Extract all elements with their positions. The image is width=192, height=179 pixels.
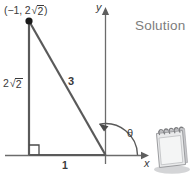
vertex-point-marker bbox=[25, 17, 32, 24]
solution-heading: Solution bbox=[135, 19, 185, 33]
x-axis-label: x bbox=[144, 158, 150, 169]
right-angle-marker bbox=[29, 145, 39, 155]
radical-symbol-point: √2 bbox=[31, 4, 45, 16]
point-label-open: (−1, 2 bbox=[4, 4, 31, 16]
radicand-leg: 2 bbox=[15, 78, 23, 90]
hypotenuse-length-label: 3 bbox=[68, 76, 74, 87]
point-coordinate-label: (−1, 2√2) bbox=[4, 4, 47, 16]
point-label-close: ) bbox=[44, 4, 47, 16]
radical-symbol-leg: √2 bbox=[9, 77, 23, 89]
notepad-page bbox=[159, 136, 183, 165]
angle-arrowhead bbox=[99, 124, 109, 132]
angle-theta-label: θ bbox=[127, 128, 133, 139]
y-axis-label: y bbox=[96, 2, 102, 13]
vertical-leg-length-label: 2√2 bbox=[3, 77, 23, 89]
triangle-hypotenuse bbox=[29, 21, 106, 155]
notepad-icon bbox=[152, 122, 192, 179]
figure-root: (−1, 2√2) 2√2 3 1 θ x y Solution bbox=[0, 0, 192, 179]
y-axis bbox=[102, 7, 109, 164]
horizontal-leg-length-label: 1 bbox=[62, 160, 68, 171]
radicand-point: 2 bbox=[37, 5, 44, 17]
